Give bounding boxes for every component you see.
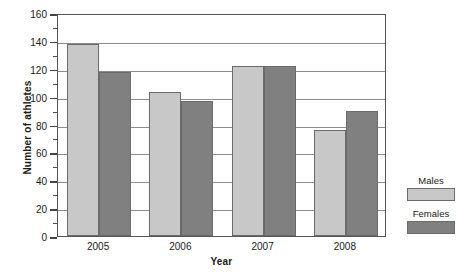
bar-chart: Number of athletes 020406080100120140160… [0, 0, 469, 275]
x-axis-tick-label: 2007 [252, 241, 274, 252]
legend-label: Females [398, 208, 464, 219]
y-tick-major [50, 70, 57, 72]
y-axis-tick-label: 20 [36, 204, 47, 215]
y-tick-major [50, 181, 57, 183]
legend-entry-females: Females [398, 208, 464, 234]
y-axis-tick-label: 100 [30, 92, 47, 103]
legend-swatch [407, 221, 455, 234]
y-tick-major [50, 14, 57, 16]
y-axis-tick-label: 140 [30, 36, 47, 47]
x-axis-title: Year [57, 256, 386, 267]
x-axis-tick-label: 2008 [334, 241, 356, 252]
y-axis-tick-label: 60 [36, 148, 47, 159]
bar-females-2008 [346, 111, 378, 236]
y-tick-major [50, 98, 57, 100]
y-tick-major [50, 153, 57, 155]
y-tick-major [50, 126, 57, 128]
bar-males-2006 [149, 92, 181, 236]
bar-males-2005 [67, 44, 99, 236]
y-axis-tick-label: 0 [41, 232, 47, 243]
legend-entry-males: Males [398, 175, 464, 201]
y-tick-major [50, 237, 57, 239]
y-tick-major [50, 42, 57, 44]
y-axis: 020406080100120140160 [0, 14, 57, 238]
chart-legend: MalesFemales [398, 175, 464, 241]
y-axis-tick-label: 40 [36, 176, 47, 187]
bar-females-2006 [181, 101, 213, 236]
y-axis-tick-label: 120 [30, 64, 47, 75]
y-tick-major [50, 209, 57, 211]
y-axis-tick-label: 80 [36, 120, 47, 131]
legend-label: Males [398, 175, 464, 186]
legend-swatch [407, 188, 455, 201]
x-axis-tick-label: 2006 [169, 241, 191, 252]
x-axis-tick-label: 2005 [87, 241, 109, 252]
plot-area [57, 14, 386, 237]
bar-females-2005 [99, 72, 131, 236]
bar-females-2007 [264, 66, 296, 236]
bar-males-2008 [314, 130, 346, 236]
bars-layer [58, 15, 385, 236]
bar-males-2007 [232, 66, 264, 236]
y-axis-tick-label: 160 [30, 9, 47, 20]
